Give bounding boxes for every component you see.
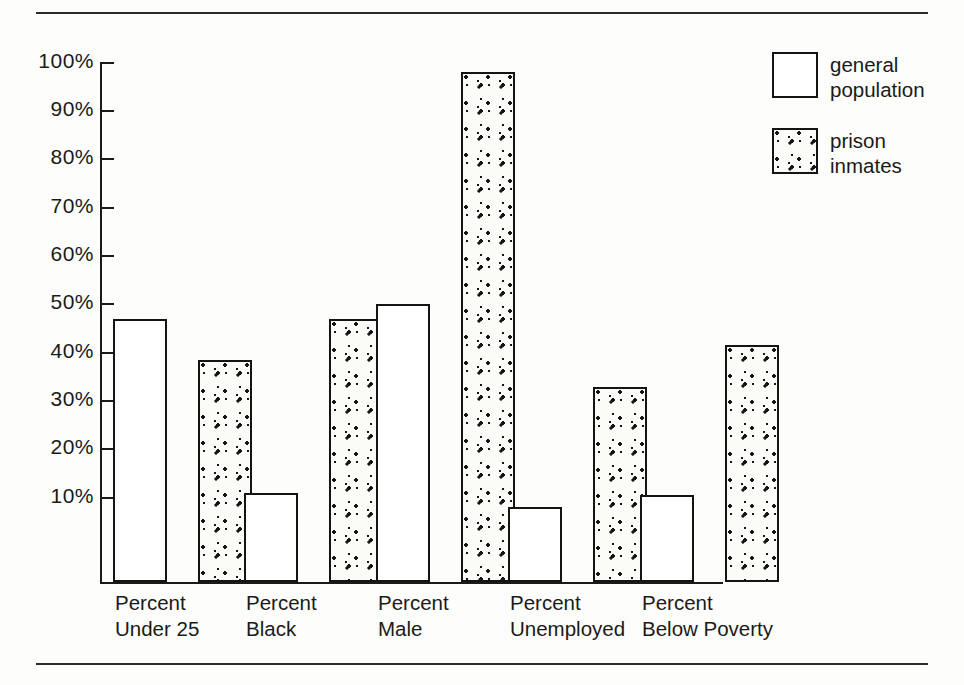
bar-percent-below-poverty-prison-inmates [725, 345, 779, 582]
group-label-percent-black: Percent Black [246, 590, 317, 642]
bar-percent-black-general-population [244, 493, 298, 582]
y-tick-80 [100, 158, 114, 160]
y-tick-70 [100, 207, 114, 209]
legend-swatch-prison-inmates [772, 128, 818, 174]
y-tick-40 [100, 352, 114, 354]
y-tick-label-70: 70% [18, 194, 94, 218]
bar-percent-unemployed-prison-inmates [593, 387, 647, 582]
x-axis-line [100, 582, 723, 584]
y-tick-label-40: 40% [18, 339, 94, 363]
y-tick-label-100: 100% [18, 49, 94, 73]
legend-item-prison: prison inmates [772, 128, 952, 178]
figure-page: 10%20%30%40%50%60%70%80%90%100% Percent … [0, 0, 964, 685]
y-tick-label-90: 90% [18, 97, 94, 121]
y-tick-label-20: 20% [18, 435, 94, 459]
y-tick-10 [100, 497, 114, 499]
bar-percent-male-general-population [376, 304, 430, 582]
group-label-percent-male: Percent Male [378, 590, 449, 642]
legend-item-general: general population [772, 52, 952, 102]
y-tick-90 [100, 110, 114, 112]
y-tick-20 [100, 448, 114, 450]
chart-legend: general populationprison inmates [772, 52, 952, 204]
y-tick-label-50: 50% [18, 290, 94, 314]
y-tick-60 [100, 255, 114, 257]
group-label-percent-below-poverty: Percent Below Poverty [642, 590, 773, 642]
y-tick-label-30: 30% [18, 387, 94, 411]
y-tick-50 [100, 303, 114, 305]
y-axis-line [100, 62, 102, 583]
group-label-percent-under-25: Percent Under 25 [115, 590, 199, 642]
y-tick-label-60: 60% [18, 242, 94, 266]
legend-swatch-general-population [772, 52, 818, 98]
bar-percent-under-25-general-population [113, 319, 167, 582]
legend-label-prison: prison inmates [830, 128, 902, 178]
bar-percent-male-prison-inmates [461, 72, 515, 582]
legend-label-general: general population [830, 52, 925, 102]
bar-percent-unemployed-general-population [508, 507, 562, 582]
bar-percent-black-prison-inmates [329, 319, 383, 582]
y-tick-100 [100, 62, 114, 64]
y-tick-30 [100, 400, 114, 402]
y-tick-label-10: 10% [18, 484, 94, 508]
group-label-percent-unemployed: Percent Unemployed [510, 590, 625, 642]
y-tick-label-80: 80% [18, 145, 94, 169]
bar-percent-below-poverty-general-population [640, 495, 694, 582]
